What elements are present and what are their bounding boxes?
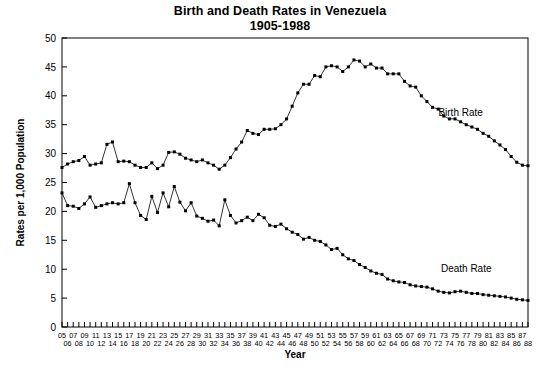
data-point-marker xyxy=(223,198,226,201)
y-tick-label: 30 xyxy=(45,148,57,159)
data-point-marker xyxy=(229,156,232,159)
x-tick-label: 86 xyxy=(513,339,521,348)
data-point-marker xyxy=(397,72,400,75)
data-point-marker xyxy=(111,141,114,144)
x-tick-label: 24 xyxy=(165,339,173,348)
x-tick-label: 58 xyxy=(356,339,364,348)
x-tick-label: 32 xyxy=(210,339,218,348)
data-point-marker xyxy=(313,239,316,242)
data-point-marker xyxy=(392,279,395,282)
x-tick-label: 48 xyxy=(299,339,307,348)
data-point-marker xyxy=(403,281,406,284)
data-point-marker xyxy=(386,72,389,75)
data-point-marker xyxy=(364,65,367,68)
data-point-marker xyxy=(251,219,254,222)
data-point-marker xyxy=(89,164,92,167)
data-point-marker xyxy=(291,231,294,234)
data-point-marker xyxy=(308,83,311,86)
data-point-marker xyxy=(487,294,490,297)
data-point-marker xyxy=(285,227,288,230)
data-point-marker xyxy=(487,135,490,138)
data-point-marker xyxy=(162,164,165,167)
data-point-marker xyxy=(263,216,266,219)
data-point-marker xyxy=(341,253,344,256)
x-tick-label: 62 xyxy=(378,339,386,348)
y-tick-label: 10 xyxy=(45,264,57,275)
data-point-marker xyxy=(218,224,221,227)
data-point-marker xyxy=(397,280,400,283)
data-point-marker xyxy=(145,218,148,221)
data-point-marker xyxy=(442,291,445,294)
y-axis: 05101520253035404550 xyxy=(45,33,67,333)
data-point-marker xyxy=(465,123,468,126)
data-point-marker xyxy=(61,191,64,194)
data-point-marker xyxy=(195,215,198,218)
x-tick-label: 10 xyxy=(86,339,94,348)
data-point-marker xyxy=(100,161,103,164)
data-point-marker xyxy=(190,201,193,204)
data-point-marker xyxy=(268,128,271,131)
data-point-marker xyxy=(274,127,277,130)
data-point-marker xyxy=(184,157,187,160)
data-point-marker xyxy=(302,238,305,241)
data-point-marker xyxy=(324,65,327,68)
data-point-marker xyxy=(145,166,148,169)
data-point-marker xyxy=(122,201,125,204)
data-point-marker xyxy=(83,155,86,158)
data-point-marker xyxy=(403,80,406,83)
data-point-marker xyxy=(162,191,165,194)
data-point-marker xyxy=(218,168,221,171)
data-point-marker xyxy=(257,133,260,136)
x-tick-label: 72 xyxy=(434,339,442,348)
data-point-marker xyxy=(167,205,170,208)
data-point-marker xyxy=(465,291,468,294)
y-tick-label: 0 xyxy=(50,322,56,333)
data-point-marker xyxy=(240,219,243,222)
data-point-marker xyxy=(515,298,518,301)
data-point-marker xyxy=(358,263,361,266)
data-point-marker xyxy=(150,195,153,198)
data-point-marker xyxy=(498,143,501,146)
data-point-marker xyxy=(431,287,434,290)
data-point-marker xyxy=(375,67,378,70)
x-tick-label: 30 xyxy=(198,339,206,348)
data-point-marker xyxy=(381,273,384,276)
x-tick-label: 20 xyxy=(142,339,150,348)
data-point-marker xyxy=(128,160,131,163)
data-point-marker xyxy=(201,158,204,161)
data-point-marker xyxy=(66,204,69,207)
data-point-marker xyxy=(105,143,108,146)
x-tick-label: 44 xyxy=(277,339,285,348)
x-tick-label: 78 xyxy=(468,339,476,348)
data-point-marker xyxy=(122,160,125,163)
data-point-marker xyxy=(184,209,187,212)
x-tick-label: 14 xyxy=(108,339,116,348)
data-point-marker xyxy=(72,160,75,163)
x-tick-label: 08 xyxy=(75,339,83,348)
data-point-marker xyxy=(128,182,131,185)
data-point-marker xyxy=(527,299,530,302)
data-point-marker xyxy=(409,84,412,87)
data-point-marker xyxy=(291,105,294,108)
data-point-marker xyxy=(285,117,288,120)
data-point-marker xyxy=(364,266,367,269)
x-tick-label: 26 xyxy=(176,339,184,348)
x-tick-label: 54 xyxy=(333,339,341,348)
data-point-marker xyxy=(352,259,355,262)
data-point-marker xyxy=(381,67,384,70)
data-point-marker xyxy=(229,214,232,217)
x-tick-label: 18 xyxy=(131,339,139,348)
x-tick-label: 84 xyxy=(501,339,509,348)
data-point-marker xyxy=(352,58,355,61)
data-point-marker xyxy=(386,278,389,281)
data-point-marker xyxy=(263,128,266,131)
y-tick-label: 25 xyxy=(45,177,57,188)
data-point-marker xyxy=(268,224,271,227)
y-tick-label: 20 xyxy=(45,206,57,217)
data-point-marker xyxy=(330,248,333,251)
data-point-marker xyxy=(420,285,423,288)
data-point-marker xyxy=(341,70,344,73)
data-point-marker xyxy=(409,283,412,286)
data-point-marker xyxy=(414,86,417,89)
series-line-death-rate xyxy=(62,184,528,301)
